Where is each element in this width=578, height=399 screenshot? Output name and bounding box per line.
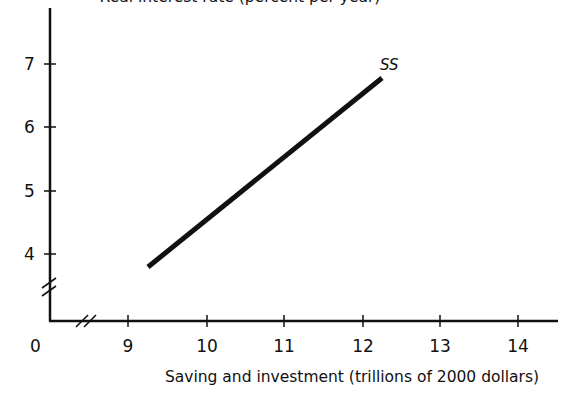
y-axis-title: Real interest rate (percent per year): [100, 0, 381, 6]
ss-curve: [148, 78, 382, 267]
y-tick-5: 5: [24, 181, 35, 201]
y-tick-labels: 4 5 6 7: [24, 54, 35, 264]
y-tick-4: 4: [24, 244, 35, 264]
y-tick-7: 7: [24, 54, 35, 74]
x-tick-14: 14: [507, 336, 529, 356]
x-tick-9: 9: [123, 336, 134, 356]
x-tick-13: 13: [429, 336, 451, 356]
y-tick-6: 6: [24, 117, 35, 137]
origin-label: 0: [30, 336, 41, 356]
x-axis-title: Saving and investment (trillions of 2000…: [165, 368, 539, 386]
saving-supply-chart: 4 5 6 7 9 10 11 12 13 14 0 Saving and in…: [0, 0, 578, 399]
x-tick-12: 12: [352, 336, 374, 356]
x-tick-labels: 9 10 11 12 13 14: [123, 336, 529, 356]
x-tick-10: 10: [196, 336, 218, 356]
x-tick-11: 11: [273, 336, 295, 356]
ss-curve-label: SS: [380, 56, 399, 74]
